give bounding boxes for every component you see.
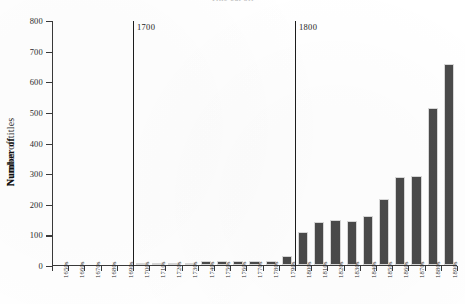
x-tick-label: 1800s: [306, 261, 313, 278]
x-tick-label: 1770s: [257, 261, 264, 278]
x-tick-label: 1790s: [290, 261, 297, 278]
y-tick-label: 500: [30, 109, 43, 118]
x-tick-label: 1760s: [241, 261, 248, 278]
x-tick-label: 1820s: [338, 261, 345, 278]
y-axis-label-overlap: Number of: [5, 138, 16, 186]
century-marker-line: [133, 21, 134, 266]
x-tick-label: 1840s: [371, 261, 378, 278]
y-tick-label: 300: [30, 170, 43, 179]
x-tick-label: 1850s: [387, 261, 394, 278]
y-tick-label: 800: [30, 17, 43, 26]
bar: [428, 108, 438, 265]
x-tick-label: 1780s: [273, 261, 280, 278]
century-marker-label: 1800: [299, 22, 317, 32]
bar-series: [52, 21, 457, 265]
x-tick-label: 1880s: [435, 261, 442, 278]
bar: [395, 177, 405, 265]
y-tick-label: 700: [30, 47, 43, 56]
x-tick-mark: [52, 266, 53, 271]
x-tick-label: 1890s: [452, 261, 459, 278]
plot-area: 0100200300400500600700800 17001800: [52, 21, 457, 266]
y-tick-label: 200: [30, 201, 43, 210]
chart-figure: Title cut off Number of titles Number of…: [0, 0, 465, 304]
x-tick-label: 1670s: [95, 261, 102, 278]
bar: [411, 176, 421, 264]
y-tick-label: 600: [30, 78, 43, 87]
x-tick-label: 1750s: [225, 261, 232, 278]
century-marker-label: 1700: [137, 22, 155, 32]
bar: [347, 221, 357, 265]
x-tick-label: 1730s: [192, 261, 199, 278]
bar: [314, 222, 324, 265]
bar: [379, 199, 389, 265]
x-tick-label: 1830s: [354, 261, 361, 278]
x-tick-label: 1740s: [209, 261, 216, 278]
x-tick-label: 1660s: [79, 261, 86, 278]
x-tick-label: 1650s: [63, 261, 70, 278]
bar: [330, 220, 340, 264]
bar: [444, 64, 454, 265]
x-tick-label: 1810s: [322, 261, 329, 278]
y-tick-label: 400: [30, 139, 43, 148]
y-axis-label-group: Number of titles Number of: [2, 72, 18, 232]
x-tick-label: 1680s: [111, 261, 118, 278]
x-tick-label: 1870s: [419, 261, 426, 278]
x-tick-label: 1690s: [128, 261, 135, 278]
y-tick-label: 100: [30, 231, 43, 240]
bar: [298, 232, 308, 265]
x-tick-label: 1860s: [403, 261, 410, 278]
chart-title: Title cut off: [0, 0, 465, 2]
bar: [363, 216, 373, 265]
y-tick-label: 0: [39, 262, 43, 271]
x-tick-label: 1700s: [144, 261, 151, 278]
x-tick-label: 1710s: [160, 261, 167, 278]
x-tick-label: 1720s: [176, 261, 183, 278]
century-marker-line: [295, 21, 296, 266]
